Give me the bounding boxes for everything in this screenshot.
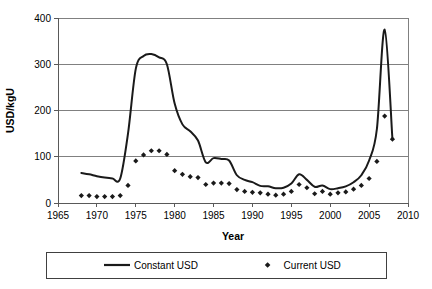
data-point-1973 — [118, 193, 123, 198]
data-point-2002 — [343, 189, 348, 194]
data-point-2000 — [328, 192, 333, 197]
data-point-2006 — [374, 159, 379, 164]
data-point-1985 — [211, 181, 216, 186]
data-point-1983 — [195, 175, 200, 180]
data-point-2007 — [382, 113, 387, 118]
x-axis-title: Year — [222, 230, 244, 242]
chart-container: 0100200300400 19651970197519801985199019… — [0, 0, 432, 289]
data-point-1968 — [79, 193, 84, 198]
data-point-1988 — [234, 187, 239, 192]
y-tick-label-200: 200 — [34, 105, 51, 116]
x-tick-label-1985: 1985 — [202, 210, 225, 221]
data-point-1981 — [180, 172, 185, 177]
data-point-1993 — [273, 193, 278, 198]
legend-label: Current USD — [284, 260, 341, 271]
x-tick-label-2000: 2000 — [319, 210, 342, 221]
data-point-1991 — [258, 190, 263, 195]
data-point-1984 — [203, 182, 208, 187]
data-point-1974 — [125, 183, 130, 188]
data-point-1992 — [265, 192, 270, 197]
y-tick-label-300: 300 — [34, 59, 51, 70]
data-point-1980 — [172, 168, 177, 173]
series-constant-usd — [81, 30, 392, 190]
data-point-1971 — [102, 194, 107, 199]
data-point-1997 — [304, 185, 309, 190]
x-tick-label-1980: 1980 — [164, 210, 187, 221]
x-tick-label-1995: 1995 — [280, 210, 303, 221]
data-point-1972 — [110, 194, 115, 199]
legend-group: Constant USDCurrent USD — [46, 252, 386, 278]
data-point-2005 — [367, 176, 372, 181]
data-point-1978 — [157, 148, 162, 153]
x-tick-label-1965: 1965 — [47, 210, 70, 221]
x-tick-label-2005: 2005 — [358, 210, 381, 221]
data-point-1990 — [250, 190, 255, 195]
gridlines-group — [58, 18, 408, 203]
y-tick-label-100: 100 — [34, 151, 51, 162]
data-point-2004 — [359, 183, 364, 188]
data-point-1989 — [242, 189, 247, 194]
data-point-1969 — [87, 193, 92, 198]
data-point-1987 — [227, 181, 232, 186]
x-tick-labels-group: 1965197019751980198519901995200020052010 — [47, 210, 420, 221]
data-point-1970 — [94, 194, 99, 199]
x-tick-label-1975: 1975 — [125, 210, 148, 221]
data-point-1998 — [312, 191, 317, 196]
x-tick-label-2010: 2010 — [397, 210, 420, 221]
y-tick-labels-group: 0100200300400 — [34, 13, 51, 209]
data-point-1975 — [133, 158, 138, 163]
y-axis-title: USD/kgU — [4, 88, 16, 133]
data-point-1977 — [149, 148, 154, 153]
series-line-path — [81, 30, 392, 190]
x-tick-label-1990: 1990 — [241, 210, 264, 221]
data-point-1982 — [188, 174, 193, 179]
data-point-1995 — [289, 189, 294, 194]
uranium-price-chart: 0100200300400 19651970197519801985199019… — [0, 0, 432, 289]
data-point-1996 — [297, 182, 302, 187]
legend-label: Constant USD — [134, 260, 198, 271]
y-tick-label-400: 400 — [34, 13, 51, 24]
x-tick-label-1970: 1970 — [86, 210, 109, 221]
data-point-1999 — [320, 189, 325, 194]
data-point-2008 — [390, 137, 395, 142]
data-point-1986 — [219, 181, 224, 186]
data-series-group — [79, 30, 395, 200]
data-point-2003 — [351, 187, 356, 192]
data-point-1994 — [281, 192, 286, 197]
data-point-2001 — [335, 190, 340, 195]
y-tick-label-0: 0 — [45, 198, 51, 209]
